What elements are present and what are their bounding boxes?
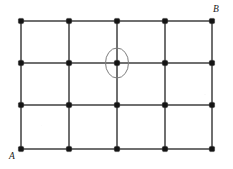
vertex-label-start: A [9,152,15,162]
lattice-node [66,18,71,23]
lattice-node [114,102,119,107]
lattice-node [209,102,214,107]
vertex-label-end: B [213,5,219,15]
lattice-node [209,18,214,23]
lattice-node [162,60,167,65]
lattice-node [162,18,167,23]
lattice-figure: A B [0,0,233,169]
lattice-node [66,102,71,107]
lattice-node [18,102,23,107]
lattice-node [162,102,167,107]
lattice-node [114,146,119,151]
lattice-node [162,146,167,151]
lattice-node [18,146,23,151]
lattice-node [114,18,119,23]
lattice-grid-graphic [0,0,233,169]
lattice-node [209,60,214,65]
lattice-node [114,60,119,65]
lattice-node [18,60,23,65]
lattice-node [66,146,71,151]
lattice-node [209,146,214,151]
vertical-grid-lines [21,21,212,149]
lattice-node [66,60,71,65]
lattice-node [18,18,23,23]
